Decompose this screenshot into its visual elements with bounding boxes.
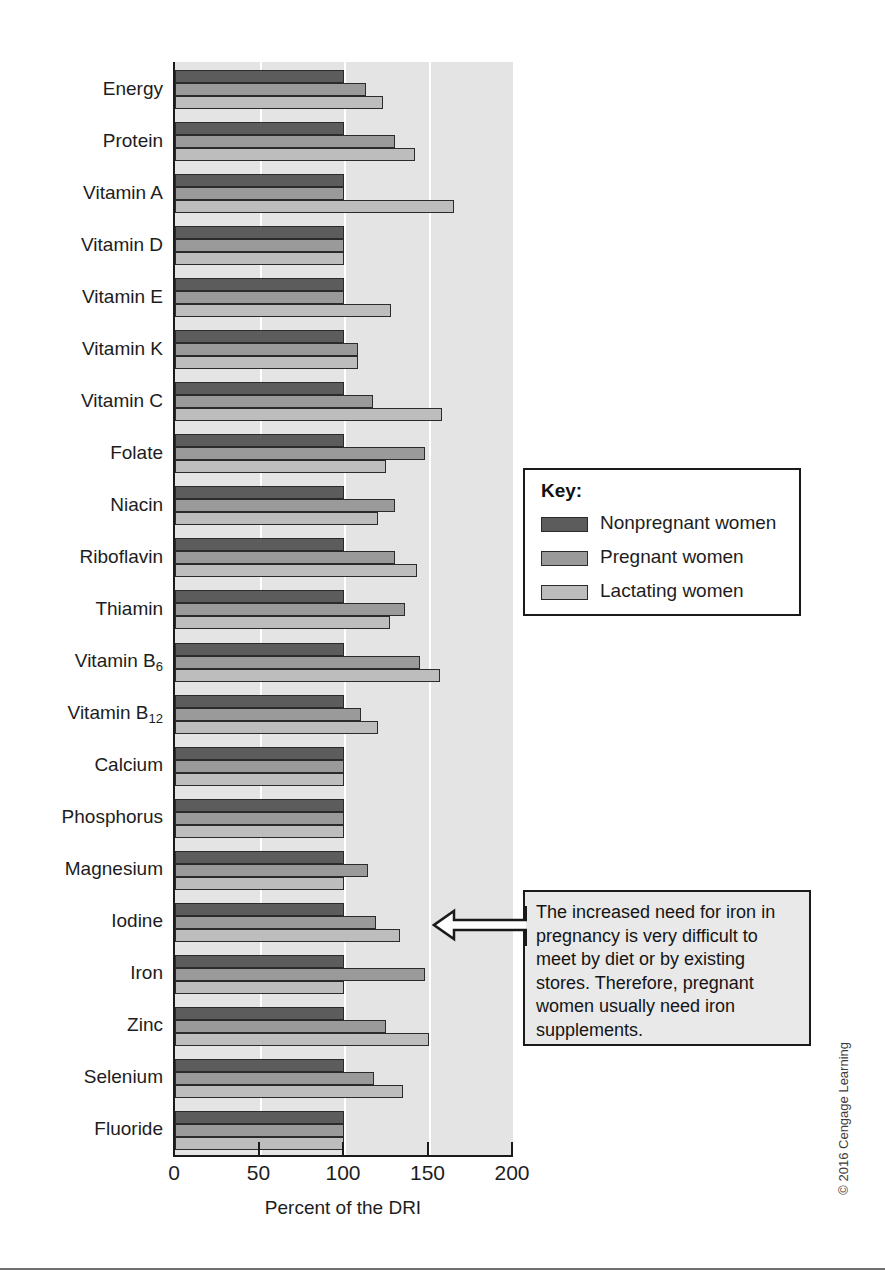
- bar: [175, 695, 344, 708]
- bar-group: [175, 851, 513, 890]
- bar: [175, 486, 344, 499]
- bar: [175, 773, 344, 786]
- x-tick: [258, 1142, 260, 1155]
- bar: [175, 643, 344, 656]
- bar: [175, 382, 344, 395]
- bar: [175, 239, 344, 252]
- x-tick-label: 100: [325, 1161, 360, 1185]
- x-tick: [173, 1142, 175, 1155]
- figure-bottom-rule: [0, 1268, 885, 1270]
- x-axis-title: Percent of the DRI: [173, 1197, 513, 1219]
- bar-group: [175, 1111, 513, 1150]
- bar: [175, 70, 344, 83]
- bar-group: [175, 278, 513, 317]
- bar: [175, 83, 366, 96]
- annotation-arrow-icon: [432, 903, 527, 953]
- bar: [175, 330, 344, 343]
- category-label: Vitamin K: [3, 338, 163, 360]
- category-label: Niacin: [3, 494, 163, 516]
- x-axis-line: [173, 1155, 513, 1157]
- legend-label: Pregnant women: [600, 546, 744, 568]
- bar: [175, 1020, 386, 1033]
- bar: [175, 356, 358, 369]
- bar: [175, 760, 344, 773]
- bar-group: [175, 226, 513, 265]
- copyright-notice: © 2016 Cengage Learning: [836, 1042, 851, 1195]
- category-label: Iodine: [3, 910, 163, 932]
- bar: [175, 656, 420, 669]
- legend-title: Key:: [541, 480, 582, 502]
- bar: [175, 148, 415, 161]
- bar: [175, 460, 386, 473]
- bar: [175, 187, 344, 200]
- chart-figure: EnergyProteinVitamin AVitamin DVitamin E…: [0, 0, 885, 1281]
- bar: [175, 226, 344, 239]
- category-label: Selenium: [3, 1066, 163, 1088]
- x-tick-label: 0: [168, 1161, 180, 1185]
- bar: [175, 1072, 374, 1085]
- bar-group: [175, 70, 513, 109]
- chart-legend: Key: Nonpregnant womenPregnant womenLact…: [523, 468, 801, 616]
- category-label: Phosphorus: [3, 806, 163, 828]
- bar: [175, 304, 391, 317]
- category-label: Iron: [3, 962, 163, 984]
- bar: [175, 1124, 344, 1137]
- bar: [175, 603, 405, 616]
- category-label: Vitamin E: [3, 286, 163, 308]
- bar: [175, 174, 344, 187]
- legend-label: Nonpregnant women: [600, 512, 776, 534]
- bar: [175, 851, 344, 864]
- bar-group: [175, 434, 513, 473]
- bar: [175, 1033, 429, 1046]
- category-label: Energy: [3, 78, 163, 100]
- bar: [175, 864, 368, 877]
- category-label: Fluoride: [3, 1118, 163, 1140]
- bar: [175, 747, 344, 760]
- category-label: Vitamin C: [3, 390, 163, 412]
- bar: [175, 278, 344, 291]
- bar: [175, 252, 344, 265]
- bar-group: [175, 1007, 513, 1046]
- bar: [175, 877, 344, 890]
- annotation-callout: The increased need for iron in pregnancy…: [523, 890, 811, 1046]
- x-tick-label: 200: [494, 1161, 529, 1185]
- bar-group: [175, 174, 513, 213]
- bar: [175, 538, 344, 551]
- bar-group: [175, 955, 513, 994]
- category-axis-labels: EnergyProteinVitamin AVitamin DVitamin E…: [0, 62, 163, 1155]
- category-label: Calcium: [3, 754, 163, 776]
- category-label: Vitamin B6: [3, 650, 163, 672]
- bar: [175, 1007, 344, 1020]
- x-tick: [427, 1142, 429, 1155]
- x-tick-label: 150: [410, 1161, 445, 1185]
- category-label: Protein: [3, 130, 163, 152]
- bar: [175, 551, 395, 564]
- bar-group: [175, 590, 513, 629]
- bar: [175, 968, 425, 981]
- bar: [175, 721, 378, 734]
- bar: [175, 512, 378, 525]
- bar: [175, 200, 454, 213]
- bar: [175, 291, 344, 304]
- bar: [175, 122, 344, 135]
- bar: [175, 408, 442, 421]
- bar: [175, 564, 417, 577]
- bar: [175, 395, 373, 408]
- bar: [175, 1111, 344, 1124]
- category-label: Vitamin B12: [3, 702, 163, 724]
- category-label: Vitamin A: [3, 182, 163, 204]
- bar: [175, 669, 440, 682]
- bar: [175, 955, 344, 968]
- legend-swatch-icon: [541, 585, 588, 600]
- bar: [175, 812, 344, 825]
- bar: [175, 929, 400, 942]
- bar-group: [175, 330, 513, 369]
- bar-group: [175, 538, 513, 577]
- bar: [175, 1085, 403, 1098]
- bar-group: [175, 643, 513, 682]
- x-tick: [342, 1142, 344, 1155]
- category-label: Folate: [3, 442, 163, 464]
- bar: [175, 1137, 344, 1150]
- bar: [175, 981, 344, 994]
- bar-group: [175, 747, 513, 786]
